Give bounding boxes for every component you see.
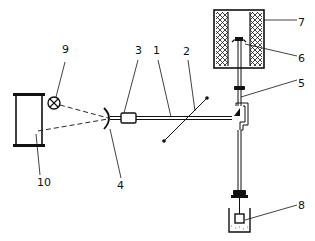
- label-9: 9: [62, 43, 69, 56]
- label-10: 10: [37, 176, 51, 189]
- diagram-canvas: 9 3 1 2 4 10 5 6 7 8: [0, 0, 315, 241]
- label-1: 1: [153, 44, 160, 57]
- label-3: 3: [135, 44, 142, 57]
- label-4: 4: [117, 179, 124, 192]
- label-7: 7: [298, 16, 305, 29]
- lamp-icon: [48, 97, 60, 109]
- label-2: 2: [183, 45, 190, 58]
- scale-screen: [13, 93, 45, 147]
- light-path: [38, 105, 108, 131]
- label-5: 5: [298, 77, 305, 90]
- mirror: [104, 108, 109, 129]
- label-6: 6: [298, 52, 305, 65]
- label-8: 8: [298, 199, 305, 212]
- rod-assembly: [110, 113, 232, 123]
